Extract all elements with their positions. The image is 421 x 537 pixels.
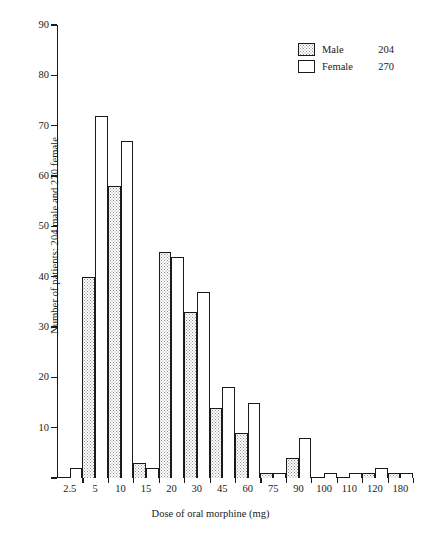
x-tick-label-15: 15 bbox=[141, 484, 152, 495]
y-tick-20 bbox=[51, 377, 57, 378]
x-tick-label-120: 120 bbox=[367, 484, 383, 495]
x-tick-60 bbox=[260, 478, 261, 483]
x-tick-label-5: 5 bbox=[93, 484, 98, 495]
bar-male-75 bbox=[260, 473, 273, 478]
bar-female-5 bbox=[95, 116, 108, 478]
x-axis-title-text: Dose of oral morphine (mg) bbox=[152, 508, 270, 519]
y-tick-label-80: 80 bbox=[39, 70, 50, 81]
x-tick-90 bbox=[311, 478, 312, 483]
bar-female-110 bbox=[349, 473, 362, 478]
chart-legend: Male 204 Female 270 bbox=[298, 41, 394, 75]
legend-value-female: 270 bbox=[370, 61, 394, 72]
y-tick-label-10: 10 bbox=[39, 422, 50, 433]
x-tick-label-75: 75 bbox=[268, 484, 279, 495]
legend-swatch-female-icon bbox=[298, 60, 315, 73]
x-tick-label-45: 45 bbox=[217, 484, 228, 495]
y-tick-label-70: 70 bbox=[39, 120, 50, 131]
x-tick-75 bbox=[286, 478, 287, 483]
bar-male-5 bbox=[82, 277, 95, 478]
x-axis-title: Dose of oral morphine (mg) bbox=[0, 508, 421, 519]
y-tick-label-90: 90 bbox=[39, 20, 50, 31]
y-tick-40 bbox=[51, 276, 57, 277]
bar-male-120 bbox=[362, 473, 375, 478]
legend-label-male: Male bbox=[322, 44, 370, 55]
x-tick-label-110: 110 bbox=[342, 484, 357, 495]
bar-female-20 bbox=[171, 257, 184, 478]
bar-male-45 bbox=[210, 408, 223, 478]
bar-female-15 bbox=[146, 468, 159, 478]
y-tick-60 bbox=[51, 175, 57, 176]
y-tick-90 bbox=[51, 24, 57, 25]
legend-value-male: 204 bbox=[370, 44, 394, 55]
x-tick-180 bbox=[413, 478, 414, 483]
x-tick-label-180: 180 bbox=[392, 484, 408, 495]
y-tick-80 bbox=[51, 75, 57, 76]
legend-label-female: Female bbox=[322, 61, 370, 72]
x-tick-label-100: 100 bbox=[316, 484, 332, 495]
legend-swatch-male-icon bbox=[298, 43, 315, 56]
bar-male-10 bbox=[108, 186, 121, 478]
x-tick-100 bbox=[337, 478, 338, 483]
y-tick-10 bbox=[51, 427, 57, 428]
bar-female-60 bbox=[248, 403, 261, 479]
bar-female-75 bbox=[273, 473, 286, 478]
legend-item-female: Female 270 bbox=[298, 58, 394, 75]
y-axis-line bbox=[57, 25, 58, 478]
x-tick-label-10: 10 bbox=[115, 484, 126, 495]
y-tick-70 bbox=[51, 125, 57, 126]
histogram-chart: Number of patients: 204 male and 270 fem… bbox=[0, 0, 421, 537]
bar-male-60 bbox=[235, 433, 248, 478]
x-tick-label-30: 30 bbox=[192, 484, 203, 495]
x-tick-label-90: 90 bbox=[293, 484, 304, 495]
legend-item-male: Male 204 bbox=[298, 41, 394, 58]
y-tick-label-30: 30 bbox=[39, 322, 50, 333]
y-tick-label-60: 60 bbox=[39, 171, 50, 182]
x-tick-110 bbox=[362, 478, 363, 483]
bar-male-15 bbox=[133, 463, 146, 478]
bar-female-100 bbox=[324, 473, 337, 478]
bar-female-90 bbox=[299, 438, 312, 478]
bar-male-180 bbox=[388, 473, 401, 478]
x-tick-20 bbox=[184, 478, 185, 483]
x-tick-label-2.5: 2.5 bbox=[63, 484, 76, 495]
x-tick-label-20: 20 bbox=[166, 484, 177, 495]
bar-male-20 bbox=[159, 252, 172, 479]
y-tick-30 bbox=[51, 326, 57, 327]
x-tick-5 bbox=[108, 478, 109, 483]
bar-female-45 bbox=[222, 387, 235, 478]
y-tick-50 bbox=[51, 226, 57, 227]
bar-female-120 bbox=[375, 468, 388, 478]
bar-female-180 bbox=[400, 473, 413, 478]
bar-female-2.5 bbox=[70, 468, 83, 478]
x-tick-15 bbox=[159, 478, 160, 483]
x-tick-2.5 bbox=[82, 478, 83, 483]
x-tick-10 bbox=[133, 478, 134, 483]
bar-male-30 bbox=[184, 312, 197, 478]
y-tick-label-40: 40 bbox=[39, 271, 50, 282]
y-tick-label-20: 20 bbox=[39, 372, 50, 383]
bar-female-30 bbox=[197, 292, 210, 478]
bar-male-90 bbox=[286, 458, 299, 478]
x-tick-45 bbox=[235, 478, 236, 483]
y-tick-0 bbox=[51, 477, 57, 478]
x-tick-120 bbox=[388, 478, 389, 483]
bar-female-10 bbox=[121, 141, 134, 478]
x-tick-label-60: 60 bbox=[242, 484, 253, 495]
plot-area: 102030405060708090 2.5510152030456075901… bbox=[57, 25, 413, 478]
x-tick-30 bbox=[210, 478, 211, 483]
y-tick-label-50: 50 bbox=[39, 221, 50, 232]
